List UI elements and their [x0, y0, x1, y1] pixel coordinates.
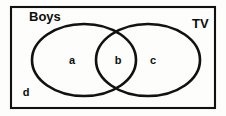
set-label-boys: Boys	[29, 9, 61, 24]
venn-diagram-svg: Boys TV a b c d	[0, 0, 226, 116]
set-label-tv: TV	[192, 16, 209, 31]
venn-diagram-canvas: Boys TV a b c d	[0, 0, 226, 116]
region-label-d: d	[23, 86, 30, 98]
region-label-a: a	[69, 54, 76, 66]
region-label-b: b	[115, 54, 122, 66]
region-label-c: c	[150, 54, 156, 66]
